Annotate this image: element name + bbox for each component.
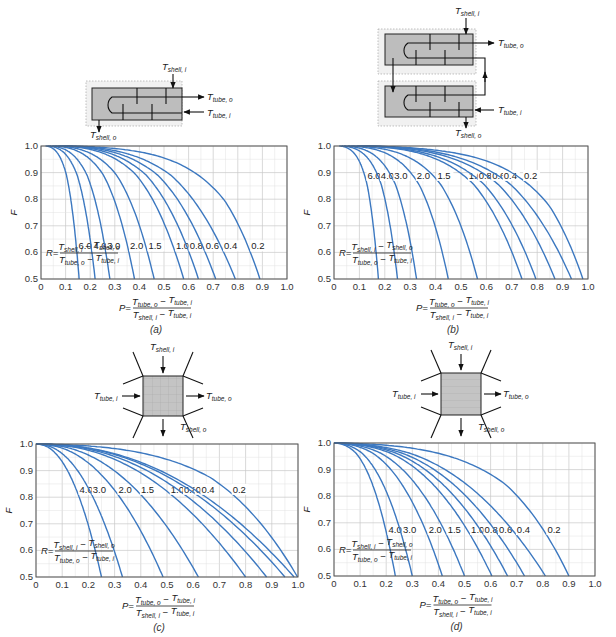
formula-numerator: Ttube, o − Ttube, i	[432, 591, 493, 605]
y-tick-label: 0.8	[318, 490, 331, 501]
x-tick-label: 0.6	[484, 578, 497, 589]
x-tick-label: 0.9	[562, 578, 575, 589]
curve-label: 3.0	[403, 524, 416, 535]
x-tick-label: 0.7	[510, 578, 523, 589]
plot-area: 4.03.02.01.51.00.80.60.40.200.10.20.30.4…	[301, 437, 602, 632]
formula-lhs: P=	[420, 599, 432, 610]
formula-denominator: Tshell, i − Ttube, i	[433, 604, 492, 618]
x-tick-label: 1.0	[588, 578, 601, 589]
y-axis-label: F	[301, 505, 312, 512]
x-tick-label: 0.4	[432, 578, 445, 589]
y-tick-label: 0.7	[318, 517, 331, 528]
x-tick-label: 0.8	[536, 578, 549, 589]
curve-label: 0.2	[547, 524, 560, 535]
chart-svg: 4.03.02.01.51.00.80.60.40.200.10.20.30.4…	[0, 0, 616, 637]
x-tick-label: 0	[331, 578, 336, 589]
chart-caption: (d)	[450, 621, 462, 632]
y-tick-label: 1.0	[318, 437, 331, 448]
y-tick-label: 0.6	[318, 543, 331, 554]
curve-label: 0.4	[517, 524, 530, 535]
curve-label: 0.6	[499, 524, 512, 535]
curve-label: 1.5	[448, 524, 461, 535]
y-tick-label: 0.9	[318, 464, 331, 475]
chart-d: 4.03.02.01.51.00.80.60.40.200.10.20.30.4…	[0, 0, 616, 637]
formula-lhs: R=	[339, 544, 352, 555]
x-tick-label: 0.3	[406, 578, 419, 589]
x-tick-label: 0.2	[380, 578, 393, 589]
y-tick-label: 0.5	[318, 570, 331, 581]
x-tick-label: 0.5	[458, 578, 471, 589]
x-tick-label: 0.1	[353, 578, 366, 589]
curve-label: 2.0	[429, 524, 442, 535]
